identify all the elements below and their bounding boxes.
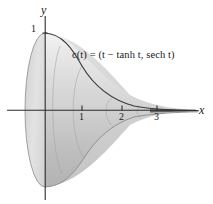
x-axis-label: x xyxy=(199,104,204,116)
x-tick-label-3: 3 xyxy=(154,112,159,122)
y-tick-label-1: 1 xyxy=(31,24,36,34)
y-axis-label: y xyxy=(41,4,46,16)
x-tick-label-2: 2 xyxy=(119,112,124,122)
x-tick-label-1: 1 xyxy=(79,112,84,122)
parametric-equation-label: c(t) = (t − tanh t, sech t) xyxy=(72,50,175,61)
